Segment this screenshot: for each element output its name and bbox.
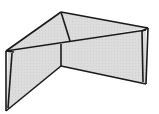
- folded-panels-diagram: [0, 0, 159, 114]
- left-panel-face: [6, 43, 61, 111]
